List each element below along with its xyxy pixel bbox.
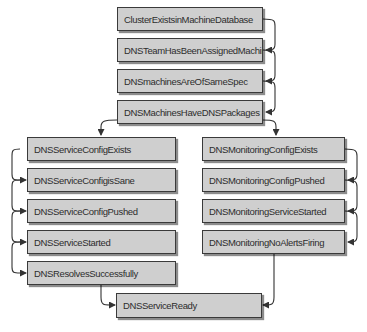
node-label: DNSServiceStarted [34, 237, 110, 248]
node-dns-monitoring-no-alerts-firing: DNSMonitoringNoAlertsFiring [202, 230, 345, 254]
node-label: DNSServiceConfigisSane [34, 175, 135, 186]
node-label: ClusterExistsinMachineDatabase [124, 14, 253, 25]
node-dns-service-started: DNSServiceStarted [27, 230, 176, 254]
dependency-diagram: ClusterExistsinMachineDatabase DNSTeamHa… [0, 0, 367, 332]
node-dns-service-ready: DNSServiceReady [116, 293, 262, 318]
node-dns-service-config-pushed: DNSServiceConfigPushed [27, 199, 176, 223]
node-label: DNSResolvesSuccessfully [34, 268, 138, 279]
node-label: DNSServiceConfigPushed [34, 206, 138, 217]
node-label: DNSTeamHasBeenAssignedMachines [124, 45, 263, 56]
node-label: DNSMonitoringNoAlertsFiring [209, 237, 324, 248]
node-dns-resolves-successfully: DNSResolvesSuccessfully [27, 261, 176, 285]
node-label: DNSServiceReady [123, 300, 197, 311]
node-label: DNSServiceConfigExists [34, 144, 131, 155]
node-dns-team-has-been-assigned-machines: DNSTeamHasBeenAssignedMachines [117, 38, 263, 62]
node-cluster-exists-in-machine-database: ClusterExistsinMachineDatabase [117, 7, 263, 31]
node-label: DNSMonitoringConfigExists [209, 144, 317, 155]
node-dns-machines-have-dns-packages: DNSMachinesHaveDNSPackages [117, 100, 263, 124]
node-dns-monitoring-service-started: DNSMonitoringServiceStarted [202, 199, 345, 223]
node-dns-service-config-exists: DNSServiceConfigExists [27, 137, 176, 161]
node-label: DNSmachinesAreOfSameSpec [124, 76, 248, 87]
node-dns-monitoring-config-pushed: DNSMonitoringConfigPushed [202, 168, 345, 192]
node-dns-monitoring-config-exists: DNSMonitoringConfigExists [202, 137, 345, 161]
node-label: DNSMachinesHaveDNSPackages [124, 107, 260, 118]
node-dns-service-config-is-sane: DNSServiceConfigisSane [27, 168, 176, 192]
node-dns-machines-are-of-same-spec: DNSmachinesAreOfSameSpec [117, 69, 263, 93]
node-label: DNSMonitoringConfigPushed [209, 175, 324, 186]
node-label: DNSMonitoringServiceStarted [209, 206, 326, 217]
